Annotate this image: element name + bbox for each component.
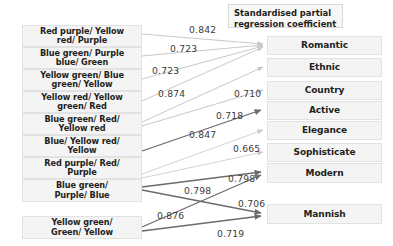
predictor-box-9[interactable]: Yellow green/ Green/ Yellow — [22, 216, 142, 239]
path-diagram: Red purple/ Yellow red/ Purple Blue gree… — [0, 0, 393, 246]
outcome-box-romantic[interactable]: Romantic — [267, 36, 382, 55]
outcome-box-mannish[interactable]: Mannish — [267, 204, 382, 224]
outcome-label-sophisticate: Sophisticate — [294, 147, 356, 157]
edge-label-p5-o3: 0.718 — [216, 110, 243, 121]
outcome-label-romantic: Romantic — [301, 40, 348, 50]
edge-label-p1-o1: 0.842 — [189, 24, 216, 35]
predictor-box-3[interactable]: Yellow green/ Blue green/ Yellow — [22, 69, 142, 91]
outcome-box-ethnic[interactable]: Ethnic — [267, 58, 382, 77]
edge-label-p8-o8: 0.876 — [157, 210, 184, 221]
edge-label-p2-o1: 0.723 — [170, 43, 197, 54]
outcome-box-active[interactable]: Active — [267, 101, 382, 120]
outcome-box-sophisticate[interactable]: Sophisticate — [267, 143, 382, 162]
edge-label-p4-o1: 0.874 — [158, 88, 185, 99]
outcome-label-country: Country — [305, 85, 345, 95]
outcome-label-mannish: Mannish — [304, 209, 346, 219]
edge-label-p6-o4: 0.847 — [189, 129, 216, 140]
outcome-label-active: Active — [309, 105, 340, 115]
edge-label-p5-o2: 0.710 — [234, 88, 261, 99]
predictor-4-line2: green/ Red — [41, 102, 122, 111]
predictor-box-7[interactable]: Red purple/ Red/ Purple — [22, 157, 142, 179]
predictor-box-1[interactable]: Red purple/ Yellow red/ Purple — [22, 25, 142, 47]
legend-line2: regression coefficient — [234, 19, 337, 30]
edge-label-p3-o1: 0.723 — [152, 65, 179, 76]
outcome-box-modern[interactable]: Modern — [267, 163, 382, 183]
predictor-1-line2: red/ Purple — [40, 36, 124, 45]
predictor-box-5[interactable]: Blue green/ Red/ Yellow red — [22, 113, 142, 135]
edge-label-p9-o7: 0.706 — [238, 198, 265, 209]
edge-label-p8-o7: 0.798 — [184, 185, 211, 196]
predictor-3-line2: green/ Yellow — [40, 80, 124, 89]
legend-line1: Standardised partial — [234, 8, 337, 19]
edge-p1-o1 — [142, 34, 263, 44]
edge-label-p9-o8: 0.719 — [217, 228, 244, 239]
predictor-6-line2: Yellow — [44, 146, 119, 155]
outcome-label-ethnic: Ethnic — [309, 62, 340, 72]
predictor-box-4[interactable]: Yellow red/ Yellow green/ Red — [22, 91, 142, 113]
outcome-box-country[interactable]: Country — [267, 81, 382, 100]
outcome-label-modern: Modern — [306, 168, 344, 178]
predictor-7-line2: Purple — [44, 168, 119, 177]
predictor-box-2[interactable]: Blue green/ Purple blue/ Green — [22, 47, 142, 69]
edge-label-p7-o5: 0.665 — [233, 143, 260, 154]
predictor-box-8[interactable]: Blue green/ Purple/ Blue — [22, 179, 142, 202]
predictor-2-line2: blue/ Green — [40, 58, 124, 67]
outcome-label-elegance: Elegance — [302, 125, 347, 135]
legend-standardised-partial-regression-coefficient: Standardised partial regression coeffici… — [228, 4, 343, 28]
edge-label-p7-o6: 0.798 — [228, 173, 255, 184]
predictor-box-6[interactable]: Blue/ Yellow red/ Yellow — [22, 135, 142, 157]
outcome-box-elegance[interactable]: Elegance — [267, 121, 382, 140]
predictor-5-line2: Yellow red — [44, 124, 119, 133]
predictor-8-line2: Purple/ Blue — [54, 191, 109, 200]
predictor-9-line2: Green/ Yellow — [51, 228, 113, 237]
